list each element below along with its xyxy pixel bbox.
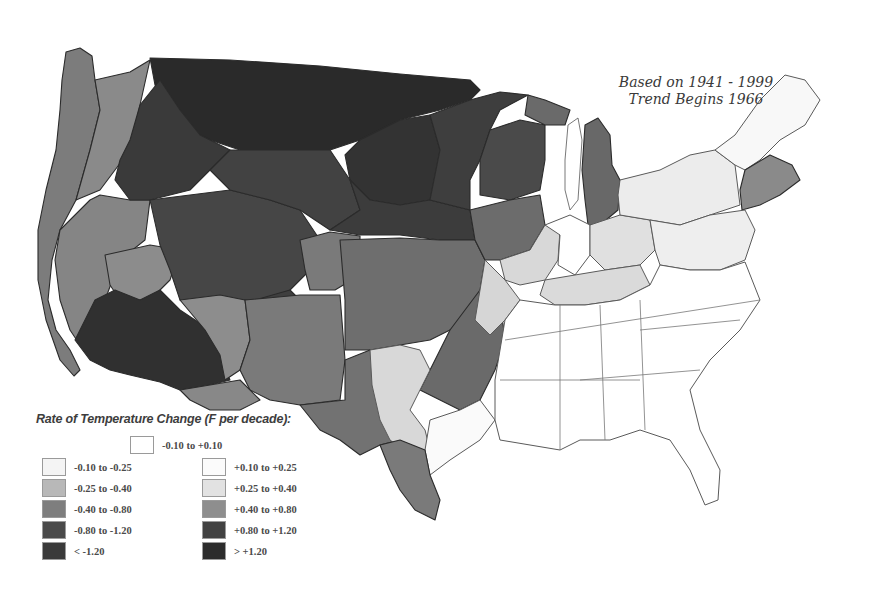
legend-swatch [202,521,226,539]
legend-label: -0.40 to -0.80 [74,504,132,515]
map-legend: Rate of Temperature Change (F per decade… [36,412,336,426]
legend-cooling-column: -0.10 to -0.25 -0.25 to -0.40 -0.40 to -… [42,458,132,560]
legend-item-cooling-5: < -1.20 [42,542,132,560]
region-michigan [582,118,620,225]
legend-title: Rate of Temperature Change (F per decade… [36,412,336,426]
legend-swatch [42,542,66,560]
annotation-period: Based on 1941 - 1999 [596,74,796,91]
region-new-mexico [240,295,345,405]
legend-swatch [202,542,226,560]
region-east-texas-coast [425,400,495,475]
temperature-change-map: Based on 1941 - 1999 Trend Begins 1966 R… [0,0,878,602]
legend-label: < -1.20 [74,546,104,557]
legend-label: -0.10 to -0.25 [74,462,132,473]
legend-item-warming-4: +0.80 to +1.20 [202,521,297,539]
region-upper-michigan-west [525,95,570,125]
trend-annotation: Based on 1941 - 1999 Trend Begins 1966 [596,74,796,108]
legend-item-warming-3: +0.40 to +0.80 [202,500,297,518]
legend-item-warming-2: +0.25 to +0.40 [202,479,297,497]
legend-item-neutral: -0.10 to +0.10 [130,436,222,454]
legend-item-cooling-2: -0.25 to -0.40 [42,479,132,497]
legend-warming-column: +0.10 to +0.25 +0.25 to +0.40 +0.40 to +… [202,458,297,560]
legend-swatch [42,521,66,539]
legend-label: +0.40 to +0.80 [234,504,297,515]
legend-swatch [42,500,66,518]
legend-label: -0.25 to -0.40 [74,483,132,494]
legend-swatch [42,458,66,476]
legend-label: +0.10 to +0.25 [234,462,297,473]
legend-swatch-neutral [130,436,154,454]
legend-swatch [202,458,226,476]
legend-item-cooling-3: -0.40 to -0.80 [42,500,132,518]
legend-swatch [42,479,66,497]
legend-item-cooling-1: -0.10 to -0.25 [42,458,132,476]
legend-item-warming-1: +0.10 to +0.25 [202,458,297,476]
legend-item-warming-5: > +1.20 [202,542,297,560]
legend-swatch [202,479,226,497]
region-southeast [495,262,760,505]
region-wisconsin [480,120,545,200]
legend-label: +0.25 to +0.40 [234,483,297,494]
legend-label: > +1.20 [234,546,267,557]
legend-label: -0.80 to -1.20 [74,525,132,536]
region-ohio [590,215,655,270]
annotation-trend-start: Trend Begins 1966 [596,91,796,108]
legend-item-cooling-4: -0.80 to -1.20 [42,521,132,539]
lake-michigan [565,118,582,210]
legend-swatch [202,500,226,518]
legend-label: +0.80 to +1.20 [234,525,297,536]
legend-label-neutral: -0.10 to +0.10 [162,440,222,451]
